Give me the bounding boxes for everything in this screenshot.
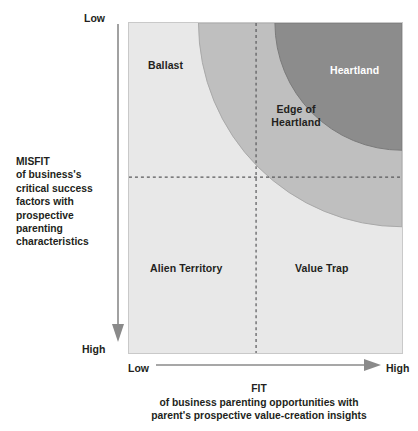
region-label-heartland: Heartland xyxy=(330,64,379,77)
y-axis-arrow-icon xyxy=(108,24,128,344)
region-label-ballast: Ballast xyxy=(148,59,183,72)
x-axis-description-line-2: parent's prospective value-creation insi… xyxy=(104,409,414,423)
x-axis-description: FIT of business parenting opportunities … xyxy=(104,382,414,423)
x-axis-right-label: High xyxy=(386,362,409,374)
region-label-alien-territory: Alien Territory xyxy=(150,262,223,275)
y-axis-top-label: Low xyxy=(84,12,105,24)
x-axis-title: FIT xyxy=(104,382,414,396)
x-axis-description-line-1: of business parenting opportunities with xyxy=(104,396,414,410)
figure-root: Ballast Heartland Edge of Heartland Alie… xyxy=(0,0,418,431)
x-axis-arrow-icon xyxy=(156,356,382,374)
y-axis-description-text: of business's critical success factors w… xyxy=(16,169,93,247)
y-axis-description: MISFIT of business's critical success fa… xyxy=(16,155,108,249)
y-axis-bottom-label: High xyxy=(82,343,105,355)
x-axis-left-label: Low xyxy=(128,362,149,374)
region-label-value-trap: Value Trap xyxy=(295,262,349,275)
region-label-edge-of-heartland: Edge of Heartland xyxy=(264,103,328,128)
y-axis-title: MISFIT xyxy=(16,155,108,168)
